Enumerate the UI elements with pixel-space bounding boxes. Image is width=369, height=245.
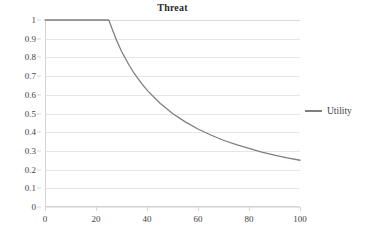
- series-utility-line: [45, 20, 300, 207]
- y-axis-tick-label: 0.5: [25, 109, 36, 118]
- series-path: [45, 20, 300, 160]
- x-axis-tick-mark: [300, 207, 301, 211]
- y-axis-tick-label: 0.2: [25, 165, 36, 174]
- y-axis-tick-label: 0.8: [25, 53, 36, 62]
- y-axis-tick-mark: [37, 20, 41, 21]
- y-axis-tick-label: 1: [32, 16, 37, 25]
- y-axis-tick-mark: [37, 94, 41, 95]
- y-axis-tick-mark: [37, 169, 41, 170]
- x-axis-tick-label: 0: [43, 215, 48, 224]
- y-axis-tick-mark: [37, 38, 41, 39]
- y-axis-tick-mark: [37, 132, 41, 133]
- x-axis-tick-mark: [96, 207, 97, 211]
- y-axis-tick-label: 0.3: [25, 146, 36, 155]
- x-axis-tick-mark: [249, 207, 250, 211]
- y-axis-tick-label: 0.6: [25, 90, 36, 99]
- y-axis-tick-label: 0.9: [25, 34, 36, 43]
- x-axis-tick-label: 40: [143, 215, 152, 224]
- x-axis-tick-label: 100: [293, 215, 307, 224]
- y-axis-tick-mark: [37, 113, 41, 114]
- chart-title: Threat: [45, 2, 300, 13]
- x-axis-tick-label: 60: [194, 215, 203, 224]
- y-axis-tick-mark: [37, 207, 41, 208]
- y-axis: 00.10.20.30.40.50.60.70.80.91: [0, 20, 41, 207]
- y-axis-tick-label: 0: [32, 203, 37, 212]
- y-axis-tick-label: 0.4: [25, 128, 36, 137]
- x-axis-tick-label: 20: [92, 215, 101, 224]
- legend-label-utility: Utility: [327, 106, 352, 116]
- y-axis-tick-mark: [37, 57, 41, 58]
- plot-area: [45, 20, 300, 207]
- x-axis-tick-mark: [45, 207, 46, 211]
- legend: Utility: [305, 106, 352, 116]
- x-axis-tick-label: 80: [245, 215, 254, 224]
- x-axis: 020406080100: [45, 207, 300, 233]
- y-axis-tick-mark: [37, 150, 41, 151]
- legend-swatch-utility: [305, 110, 322, 112]
- y-axis-tick-mark: [37, 188, 41, 189]
- y-axis-tick-mark: [37, 76, 41, 77]
- chart-container: Threat 00.10.20.30.40.50.60.70.80.91 020…: [0, 0, 369, 245]
- x-axis-tick-mark: [147, 207, 148, 211]
- x-axis-tick-mark: [198, 207, 199, 211]
- y-axis-tick-label: 0.7: [25, 72, 36, 81]
- y-axis-tick-label: 0.1: [25, 184, 36, 193]
